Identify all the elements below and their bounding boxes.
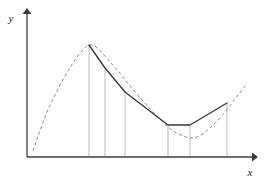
x-axis-label: x xyxy=(247,166,253,178)
droplines-group xyxy=(89,45,227,157)
plot-svg: y x xyxy=(0,0,265,186)
figure-canvas: y x xyxy=(0,0,265,186)
x-axis-arrow-icon xyxy=(252,153,258,162)
smooth-dashed-curve xyxy=(33,45,246,151)
piecewise-linear-curve xyxy=(89,45,227,125)
axes-group xyxy=(23,8,258,161)
y-axis-arrow-icon xyxy=(23,8,32,14)
y-axis-label: y xyxy=(8,12,14,24)
